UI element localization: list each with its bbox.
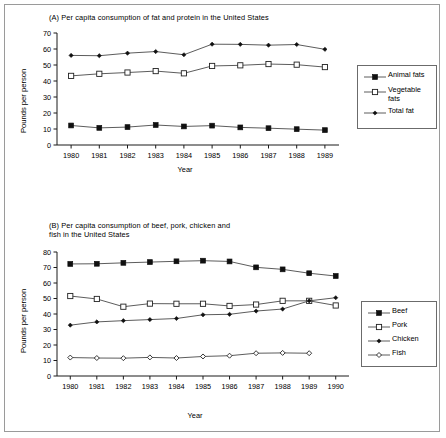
legend-marker-filled-diamond-icon [366, 335, 392, 346]
legend-label: Beef [392, 307, 407, 316]
legend-item-fish: Fish [366, 349, 432, 360]
legend-marker-filled-square-icon [366, 307, 392, 318]
svg-text:1989: 1989 [317, 151, 333, 160]
legend-item-total-fat: Total fat [362, 107, 432, 118]
legend-label: Total fat [388, 107, 414, 116]
panel-a-legend: Animal fatsVegetable fatsTotal fat [357, 65, 437, 129]
panel-b-plot-area: 0102030405060708019801981198219831984198… [23, 246, 353, 398]
panel-a-plot-area: 0102030405060701980198119821983198419851… [23, 27, 343, 167]
legend-marker-open-square-icon [362, 86, 388, 97]
legend-label: Pork [392, 321, 407, 330]
svg-text:10: 10 [43, 125, 51, 134]
svg-text:70: 70 [43, 29, 51, 38]
legend-marker-filled-diamond-icon [362, 107, 388, 118]
svg-text:0: 0 [47, 141, 51, 150]
svg-text:50: 50 [43, 61, 51, 70]
svg-text:1990: 1990 [328, 382, 344, 391]
svg-text:1983: 1983 [148, 151, 164, 160]
svg-text:1989: 1989 [301, 382, 317, 391]
legend-item-animal-fats: Animal fats [362, 71, 432, 82]
panel-b-x-axis-label: Year [45, 411, 345, 420]
chart-panel-a: (A) Per capita consumption of fat and pr… [5, 5, 440, 217]
chart-panel-b: (B) Per capita consumption of beef, pork… [5, 213, 440, 432]
svg-text:1980: 1980 [62, 382, 78, 391]
legend-label: Fish [392, 349, 406, 358]
svg-text:0: 0 [47, 372, 51, 381]
svg-text:1985: 1985 [204, 151, 220, 160]
figure-container: (A) Per capita consumption of fat and pr… [4, 4, 440, 432]
svg-text:1983: 1983 [142, 382, 158, 391]
svg-text:1984: 1984 [176, 151, 192, 160]
svg-text:20: 20 [43, 109, 51, 118]
legend-item-chicken: Chicken [366, 335, 432, 346]
legend-marker-open-diamond-icon [366, 349, 392, 360]
panel-a-x-axis-label: Year [45, 165, 325, 174]
svg-text:1986: 1986 [221, 382, 237, 391]
svg-text:1987: 1987 [260, 151, 276, 160]
svg-text:20: 20 [43, 341, 51, 350]
legend-item-beef: Beef [366, 307, 432, 318]
svg-text:1988: 1988 [275, 382, 291, 391]
svg-text:70: 70 [43, 263, 51, 272]
svg-text:60: 60 [43, 45, 51, 54]
legend-label: Vegetable fats [388, 86, 421, 103]
svg-text:1981: 1981 [89, 382, 105, 391]
svg-text:60: 60 [43, 279, 51, 288]
svg-text:40: 40 [43, 310, 51, 319]
legend-marker-filled-square-icon [362, 71, 388, 82]
legend-label: Chicken [392, 335, 419, 344]
svg-text:1984: 1984 [168, 382, 184, 391]
panel-b-title: (B) Per capita consumption of beef, pork… [49, 221, 230, 240]
legend-label: Animal fats [388, 71, 425, 80]
legend-item-vegetable-fats: Vegetable fats [362, 86, 432, 103]
svg-text:30: 30 [43, 325, 51, 334]
svg-text:1982: 1982 [115, 382, 131, 391]
svg-text:30: 30 [43, 93, 51, 102]
svg-text:1985: 1985 [195, 382, 211, 391]
svg-text:1980: 1980 [63, 151, 79, 160]
panel-b-legend: BeefPorkChickenFish [361, 301, 437, 367]
svg-text:40: 40 [43, 77, 51, 86]
legend-item-pork: Pork [366, 321, 432, 332]
svg-text:10: 10 [43, 356, 51, 365]
legend-marker-open-square-icon [366, 321, 392, 332]
svg-text:1988: 1988 [289, 151, 305, 160]
svg-text:1981: 1981 [91, 151, 107, 160]
svg-text:1986: 1986 [232, 151, 248, 160]
svg-text:1987: 1987 [248, 382, 264, 391]
svg-text:80: 80 [43, 248, 51, 257]
svg-text:1982: 1982 [119, 151, 135, 160]
svg-text:50: 50 [43, 294, 51, 303]
panel-a-title: (A) Per capita consumption of fat and pr… [49, 13, 269, 22]
